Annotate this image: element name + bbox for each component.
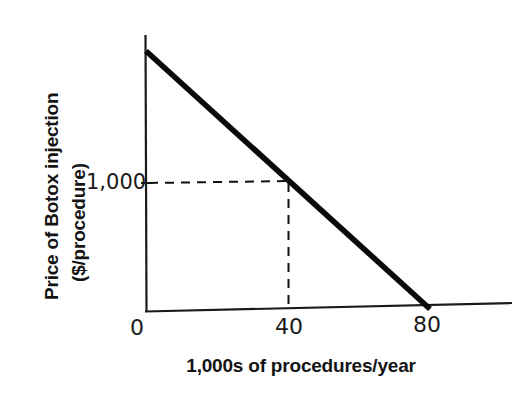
demand-curve-figure: Price of Botox injection ($/procedure) 1… [0,0,529,398]
y-axis-title: Price of Botox injection ($/procedure) [10,28,90,323]
x-tick-label-80: 80 [407,312,447,337]
x-tick-label-40: 40 [269,314,309,339]
x-tick-label-0: 0 [126,315,148,340]
y-tick-label-1000: 1,000 [86,170,142,194]
x-axis-title: 1,000s of procedures/year [136,355,466,377]
x-axis-line [145,303,512,312]
dashed-guide-horizontal [149,181,289,183]
y-axis-title-line-1: Price of Botox injection [41,93,63,300]
